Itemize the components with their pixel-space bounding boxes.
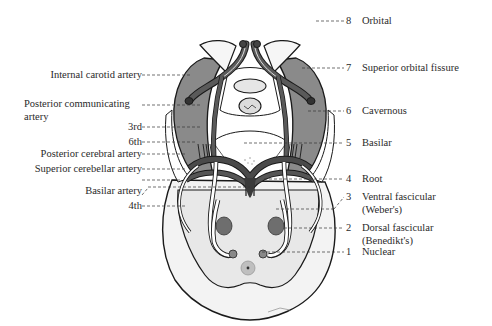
lesion-number-3: 3 (346, 191, 351, 202)
lesion-label-dorsal-fascicular-eponym: (Benedikt's) (362, 235, 413, 246)
lesion-number-6: 6 (346, 105, 351, 116)
oculomotor-nucleus-left (229, 250, 237, 258)
label-internal-carotid-artery: Internal carotid artery (50, 69, 142, 80)
red-nucleus-right (268, 217, 284, 235)
lesion-number-7: 7 (346, 62, 351, 73)
lesion-number-5: 5 (346, 137, 351, 148)
diagram-canvas: Internal carotid artery Posterior commun… (0, 0, 492, 326)
lesion-label-orbital: Orbital (362, 15, 392, 26)
label-posterior-communicating-artery-line2: artery (24, 111, 48, 122)
oculomotor-nucleus-right (259, 250, 267, 258)
dorsum-sellae (215, 131, 285, 140)
label-posterior-communicating-artery: Posterior communicating (24, 98, 130, 109)
label-posterior-cerebral-artery: Posterior cerebral artery (41, 148, 142, 159)
lesion-label-ventral-fascicular: Ventral fascicular (362, 191, 436, 202)
lesion-number-8: 8 (346, 15, 351, 26)
lesion-number-2: 2 (346, 222, 351, 233)
label-3rd-nerve: 3rd (128, 121, 142, 132)
optic-chiasm-plate (234, 79, 266, 93)
label-basilar-artery: Basilar artery (85, 185, 142, 196)
lesion-number-1: 1 (346, 246, 351, 257)
lesion-label-basilar: Basilar (362, 137, 392, 148)
red-nucleus-left (216, 217, 232, 235)
pituitary-stalk (239, 98, 261, 114)
lesion-number-4: 4 (346, 173, 351, 184)
lesion-label-superior-orbital-fissure: Superior orbital fissure (362, 62, 459, 73)
lesion-label-cavernous: Cavernous (362, 105, 407, 116)
lesion-label-ventral-fascicular-eponym: (Weber's) (362, 204, 402, 215)
label-6th-nerve: 6th (129, 136, 142, 147)
lesion-label-dorsal-fascicular: Dorsal fascicular (362, 222, 433, 233)
label-4th-nerve: 4th (129, 200, 142, 211)
label-superior-cerebellar-artery: Superior cerebellar artery (35, 163, 142, 174)
lesion-label-nuclear: Nuclear (362, 246, 395, 257)
lesion-label-root: Root (362, 173, 382, 184)
